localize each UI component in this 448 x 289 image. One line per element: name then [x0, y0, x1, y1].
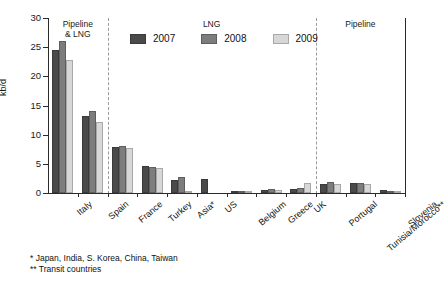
bar	[364, 184, 371, 193]
x-tick-mark	[137, 193, 138, 197]
bar	[112, 147, 119, 193]
x-category-label: Asia*	[195, 199, 218, 220]
y-tick-label: 0	[0, 187, 41, 198]
bar	[178, 177, 185, 193]
bar-group	[171, 18, 192, 193]
bar	[185, 191, 192, 193]
bar	[387, 191, 394, 193]
bar-group	[350, 18, 371, 193]
bar	[261, 190, 268, 193]
bar-group	[142, 18, 163, 193]
y-axis-title: kb/d	[0, 79, 8, 96]
bar	[66, 60, 73, 193]
bar	[275, 190, 282, 193]
y-tick-label: 15	[0, 100, 41, 111]
bar	[245, 191, 252, 193]
x-tick-mark	[346, 193, 347, 197]
x-category-label: Turkey	[166, 199, 193, 224]
bar	[89, 111, 96, 193]
bar	[394, 191, 401, 193]
bar	[350, 183, 357, 193]
bar-group	[52, 18, 73, 193]
bar-group	[261, 18, 282, 193]
bar	[201, 179, 208, 193]
bar	[82, 116, 89, 193]
x-category-label: Belgium	[257, 199, 288, 228]
bar	[126, 148, 133, 194]
bar	[290, 189, 297, 193]
x-category-label: US	[223, 199, 239, 215]
x-category-label: Portugal	[346, 199, 378, 228]
bar	[96, 122, 103, 193]
x-tick-mark	[167, 193, 168, 197]
bar	[304, 183, 311, 194]
bar-group	[82, 18, 103, 193]
bar	[171, 180, 178, 193]
bar-group	[290, 18, 311, 193]
plot-area	[48, 18, 405, 193]
y-tick-label: 25	[0, 41, 41, 52]
bar	[297, 188, 304, 193]
bar	[149, 167, 156, 193]
bar	[231, 191, 238, 193]
x-tick-mark	[108, 193, 109, 197]
x-tick-mark	[286, 193, 287, 197]
y-tick-mark	[43, 193, 48, 194]
footnote-double-asterisk: ** Transit countries	[30, 264, 178, 275]
x-tick-mark	[256, 193, 257, 197]
x-tick-mark	[197, 193, 198, 197]
bar-group	[380, 18, 401, 193]
bar	[380, 190, 387, 193]
bar-group	[201, 18, 222, 193]
bar	[52, 50, 59, 193]
bar	[268, 189, 275, 193]
bar	[156, 168, 163, 193]
bar-group	[231, 18, 252, 193]
x-category-label: Greece	[286, 199, 315, 226]
bar-group	[320, 18, 341, 193]
bar	[320, 184, 327, 193]
bar	[238, 191, 245, 193]
bar	[357, 183, 364, 194]
bar	[59, 41, 66, 193]
bar	[119, 146, 126, 193]
y-tick-label: 30	[0, 12, 41, 23]
bar	[327, 182, 334, 193]
bar	[142, 166, 149, 193]
x-category-label: Spain	[106, 199, 130, 221]
bar	[334, 184, 341, 193]
bar-group	[112, 18, 133, 193]
x-category-label: UK	[312, 199, 328, 215]
x-category-label: France	[137, 199, 165, 225]
x-tick-mark	[405, 193, 406, 197]
footnote-asterisk: * Japan, India, S. Korea, China, Taiwan	[30, 253, 178, 264]
x-tick-mark	[375, 193, 376, 197]
chart-footnotes: * Japan, India, S. Korea, China, Taiwan …	[30, 253, 178, 275]
y-tick-label: 5	[0, 158, 41, 169]
plot-right-border	[405, 18, 406, 194]
y-tick-label: 10	[0, 129, 41, 140]
x-tick-mark	[316, 193, 317, 197]
x-category-label: Italy	[75, 199, 94, 217]
y-tick-label: 20	[0, 70, 41, 81]
x-tick-mark	[227, 193, 228, 197]
x-tick-mark	[78, 193, 79, 197]
